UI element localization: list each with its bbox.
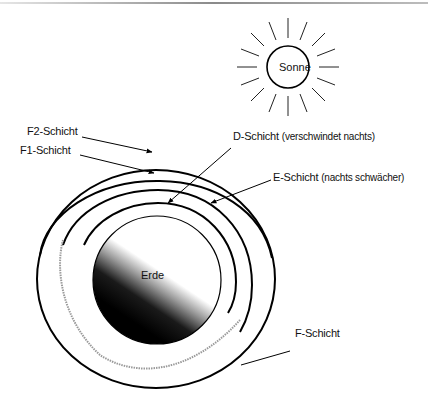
label-d-layer: D-Schicht (verschwindet nachts) [233, 130, 375, 142]
label-f-layer: F-Schicht [295, 327, 340, 339]
f1-layer-name: F1-Schicht [20, 144, 71, 156]
d-layer-name: D-Schicht [233, 130, 279, 142]
f-pointer [241, 351, 290, 365]
e-layer-name: E-Schicht [273, 171, 318, 183]
label-e-layer: E-Schicht (nachts schwächer) [273, 171, 404, 183]
f2-pointer [82, 137, 152, 152]
f1-pointer [80, 155, 154, 173]
ionosphere-diagram [0, 0, 428, 403]
f2-layer-name: F2-Schicht [27, 125, 78, 137]
label-f2-layer: F2-Schicht [27, 125, 78, 137]
f-layer-name: F-Schicht [295, 327, 340, 339]
e-layer-note: (nachts schwächer) [321, 172, 404, 183]
label-f1-layer: F1-Schicht [20, 144, 71, 156]
d-layer-note: (verschwindet nachts) [282, 131, 375, 142]
earth-label: Erde [141, 269, 164, 281]
e-pointer [211, 180, 271, 203]
sun-label: Sonne [279, 61, 311, 73]
